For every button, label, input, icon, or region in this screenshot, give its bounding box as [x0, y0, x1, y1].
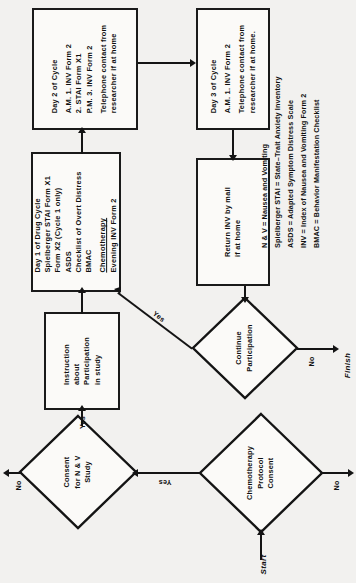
legend-entry-3: INV = Index of Nausea and Vomiting Form … — [299, 94, 308, 248]
legend-entry-0: N & V = Nausea and Vomiting — [260, 144, 269, 248]
decision-continue-participation-label: Continue Participation — [234, 324, 255, 371]
day2-line-4: Telephone contact from — [99, 25, 109, 114]
connector-day1-to-day2 — [81, 132, 83, 154]
arrowhead-day3-to-return-inv — [229, 155, 237, 161]
arrowhead-chemo-consent-yes — [132, 469, 138, 477]
decision-chemotherapy-protocol-consent: Chemotherapy Protocol Consent — [198, 412, 324, 534]
connector-continue-no-to-finish — [297, 348, 335, 350]
edge-label-chemo-consent-no: No — [332, 476, 341, 496]
day1-line-0: Day 1 of Drug Cycle — [33, 171, 43, 272]
instruction-line-0: Instruction — [62, 337, 72, 385]
decision-consent-nv-label: Consent for N & V Study — [62, 455, 94, 488]
connector-day3-to-return-inv — [232, 130, 234, 158]
connector-instruction-to-day1 — [81, 292, 83, 314]
arrowhead-start-to-chemo-consent — [257, 529, 265, 535]
arrowhead-consent-nv-no — [3, 469, 9, 477]
legend-entry-1: Spielberger STAI = State–Trait Anxiety I… — [273, 76, 282, 248]
node-day2-of-cycle: Day 2 of Cycle A.M. 1. INV Form 2 2. STA… — [32, 8, 138, 130]
day3-line-1: A.M. 1. INV Form 2 — [223, 25, 233, 114]
continue-line-0: Continue — [234, 324, 245, 371]
chemoconsent-line-2: Consent — [266, 446, 277, 500]
arrowhead-continue-no — [333, 345, 339, 353]
day3-line-0: Day 3 of Cycle — [209, 25, 219, 114]
day2-line-0: Day 2 of Cycle — [50, 25, 60, 114]
day1-line-5: BMAC — [84, 171, 94, 272]
node-instruction-text: Instruction about Participation in study — [62, 337, 103, 385]
legend-entry-2: ASDS = Adapted Symptom Distress Scale — [286, 100, 295, 248]
instruction-line-2: Participation — [82, 337, 92, 385]
arrowhead-day2-to-day3 — [190, 59, 196, 67]
arrowhead-instruction-to-day1 — [78, 287, 86, 293]
node-day2-text: Day 2 of Cycle A.M. 1. INV Form 2 2. STA… — [50, 25, 119, 114]
legend: N & V = Nausea and Vomiting Spielberger … — [258, 18, 350, 250]
continue-line-1: Participation — [245, 324, 256, 371]
edge-label-chemo-consent-yes: Yes — [150, 478, 180, 487]
connector-continue-yes-to-day1 — [117, 292, 192, 349]
arrowhead-continue-yes — [114, 284, 124, 294]
day1-line-2: Form X2 (Cycle 1 only) — [54, 171, 64, 272]
instruction-line-1: about — [72, 337, 82, 385]
arrowhead-day1-to-day2 — [78, 127, 86, 133]
node-instruction-about-participation: Instruction about Participation in study — [44, 312, 120, 410]
decision-continue-participation: Continue Participation — [191, 296, 299, 400]
arrowhead-chemo-consent-no — [348, 469, 354, 477]
edge-label-consent-nv-no: No — [14, 476, 23, 496]
consentnv-line-1: for N & V — [73, 455, 84, 488]
node-return-inv-text: Return INV by mail if at home — [223, 187, 243, 257]
edge-label-continue-no: No — [307, 352, 316, 372]
terminal-finish: Finish — [343, 344, 352, 388]
day2-line-1: A.M. 1. INV Form 2 — [65, 25, 75, 114]
day2-line-5: researcher if at home — [109, 25, 119, 114]
chemoconsent-line-0: Chemotherapy — [245, 446, 256, 500]
legend-entry-4: BMAC = Behavior Manifestation Checklist — [312, 99, 321, 248]
terminal-start: Start — [259, 545, 268, 583]
day1-line-3: ASDS — [64, 171, 74, 272]
flowchart-canvas: Day 2 of Cycle A.M. 1. INV Form 2 2. STA… — [0, 0, 356, 583]
connector-consent-nv-no — [8, 472, 22, 474]
day3-line-3: researcher if at home. — [247, 25, 257, 114]
day3-line-2: Telephone contact from — [237, 25, 247, 114]
connector-chemo-consent-no — [322, 472, 350, 474]
consentnv-line-0: Consent — [62, 455, 73, 488]
chemoconsent-line-1: Protocol — [256, 446, 267, 500]
day2-line-2: 2. STAI Form X1 — [75, 25, 85, 114]
node-day1-text: Day 1 of Drug Cycle Spielberger STAI For… — [33, 171, 119, 272]
node-day1-of-drug-cycle: Day 1 of Drug Cycle Spielberger STAI For… — [31, 152, 121, 292]
decision-chemo-consent-label: Chemotherapy Protocol Consent — [245, 446, 277, 500]
day1-line-7: Evening INV Form 2 — [109, 171, 119, 272]
connector-chemo-consent-yes-to-consent-nv — [136, 472, 200, 474]
consentnv-line-2: Study — [83, 455, 94, 488]
day1-line-4: Checklist of Overt Distress — [74, 171, 84, 272]
connector-day2-to-day3 — [138, 62, 192, 64]
instruction-line-3: in study — [92, 337, 102, 385]
arrowhead-return-inv-to-continue — [241, 297, 249, 303]
day1-line-6: Chemotherapy — [98, 171, 108, 272]
day1-line-1: Spielberger STAI Form X1 — [43, 171, 53, 272]
returninv-line-0: Return INV by mail — [223, 187, 233, 257]
node-day3-text: Day 3 of Cycle A.M. 1. INV Form 2 Teleph… — [209, 25, 258, 114]
edge-label-consent-nv-yes: Yes — [78, 409, 87, 437]
returninv-line-1: if at home — [233, 187, 243, 257]
day2-line-3: P.M. 3. INV Form 2 — [85, 25, 95, 114]
